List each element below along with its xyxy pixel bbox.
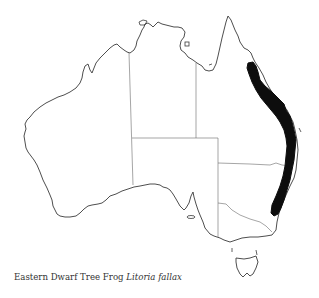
common-name: Eastern Dwarf Tree Frog — [14, 272, 124, 282]
tasmania — [236, 256, 258, 277]
flinders-island — [256, 250, 257, 255]
nsw-vic-border — [218, 203, 272, 232]
melville-island — [139, 20, 147, 25]
fraser-island — [299, 128, 301, 132]
scientific-name: Litoria fallax — [126, 272, 182, 282]
distribution-range — [247, 62, 296, 216]
groote-eylandt — [185, 42, 189, 46]
distribution-map-figure: Eastern Dwarf Tree Frog Litoria fallax — [0, 0, 319, 298]
map-caption: Eastern Dwarf Tree Frog Litoria fallax — [14, 272, 182, 282]
mornington-island — [209, 64, 212, 65]
kangaroo-island — [187, 216, 195, 219]
australia-map — [0, 0, 319, 298]
wa-border — [129, 53, 133, 185]
qld-nsw-border — [218, 163, 290, 166]
mainland-coastline — [24, 16, 298, 242]
